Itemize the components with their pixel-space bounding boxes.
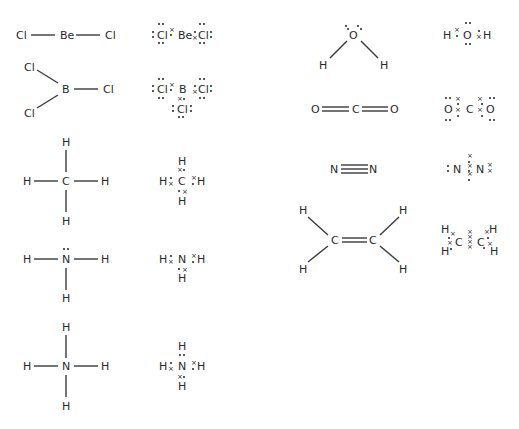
svg-text:×: ×: [168, 180, 174, 188]
atom-h: H: [23, 253, 31, 266]
atom-h: H: [399, 263, 407, 276]
molecule-diagram: Cl Be Cl Cl Be Cl × × Cl B Cl Cl Cl B C: [0, 0, 519, 429]
atom-c: C: [331, 234, 339, 247]
atom-c: C: [369, 234, 377, 247]
atom-cl: Cl: [24, 61, 35, 74]
atom-h: H: [23, 175, 31, 188]
atom-be: Be: [178, 29, 193, 42]
atom-c: C: [62, 175, 70, 188]
atom-c: C: [455, 236, 463, 249]
atom-h: H: [101, 175, 109, 188]
svg-text:×: ×: [168, 258, 174, 266]
atom-h: H: [441, 223, 449, 236]
atom-cl: Cl: [103, 83, 114, 96]
svg-text:×: ×: [477, 95, 483, 103]
svg-text:×: ×: [455, 106, 461, 114]
svg-text:×: ×: [182, 188, 188, 196]
svg-text:×: ×: [455, 95, 461, 103]
svg-text:×: ×: [454, 26, 460, 34]
atom-cl: Cl: [16, 29, 27, 42]
svg-text:×: ×: [177, 166, 183, 174]
svg-text:×: ×: [191, 174, 197, 182]
atom-h: H: [62, 136, 70, 149]
atom-n: N: [330, 163, 338, 176]
svg-text:×: ×: [476, 33, 482, 41]
atom-h: H: [197, 253, 205, 266]
atom-h: H: [443, 29, 451, 42]
atom-cl: Cl: [198, 29, 209, 42]
atom-cl: Cl: [157, 29, 168, 42]
atom-h: H: [299, 263, 307, 276]
nh4-structural: H H N H H: [23, 321, 109, 413]
atom-h: H: [483, 29, 491, 42]
svg-text:×: ×: [447, 239, 453, 247]
svg-text:×: ×: [487, 240, 493, 248]
atom-o: O: [463, 29, 472, 42]
svg-text:×: ×: [467, 152, 473, 160]
svg-text:×: ×: [192, 34, 198, 42]
svg-text:×: ×: [182, 266, 188, 274]
svg-text:×: ×: [192, 88, 198, 96]
atom-cl: Cl: [105, 29, 116, 42]
atom-n: N: [62, 360, 70, 373]
n2-dot-cross: N × × × N × ×: [447, 152, 493, 181]
atom-h: H: [62, 400, 70, 413]
bcl3-structural: Cl B Cl Cl: [24, 61, 114, 120]
atom-c: C: [352, 103, 360, 116]
atom-o: O: [311, 103, 320, 116]
ch4-dot-cross: H H C H H × × × ×: [159, 155, 205, 208]
h2o-structural: O H H: [319, 25, 388, 72]
co2-dot-cross: O C O × × × ×: [444, 95, 495, 121]
c2h4-dot-cross: H H C C H H × × × × × × × ×: [441, 223, 498, 258]
atom-o: O: [486, 103, 495, 116]
atom-h: H: [62, 321, 70, 334]
atom-n: N: [453, 163, 461, 176]
svg-text:×: ×: [191, 252, 197, 260]
svg-text:×: ×: [484, 228, 490, 236]
atom-o: O: [349, 29, 358, 42]
atom-h: H: [159, 175, 167, 188]
svg-text:×: ×: [177, 373, 183, 381]
atom-n: N: [178, 253, 186, 266]
atom-h: H: [159, 253, 167, 266]
atom-cl: Cl: [177, 103, 188, 116]
atom-h: H: [23, 360, 31, 373]
atom-h: H: [178, 195, 186, 208]
atom-h: H: [101, 253, 109, 266]
atom-b: B: [62, 83, 70, 96]
nh3-dot-cross: H N H H × × ×: [159, 252, 205, 285]
atom-h: H: [197, 175, 205, 188]
h2o-dot-cross: H O H × ×: [443, 22, 491, 45]
atom-c: C: [178, 175, 186, 188]
ch4-structural: H H C H H: [23, 136, 109, 228]
atom-h: H: [299, 204, 307, 217]
svg-text:×: ×: [191, 359, 197, 367]
atom-h: H: [319, 59, 327, 72]
atom-n: N: [476, 163, 484, 176]
svg-text:×: ×: [467, 170, 473, 178]
atom-h: H: [159, 360, 167, 373]
atom-n: N: [369, 163, 377, 176]
svg-text:×: ×: [467, 162, 473, 170]
atom-h: H: [178, 380, 186, 393]
svg-text:×: ×: [169, 81, 175, 89]
atom-h: H: [399, 204, 407, 217]
atom-cl: Cl: [24, 107, 35, 120]
svg-text:×: ×: [467, 243, 473, 251]
n2-structural: N N: [330, 163, 377, 176]
co2-structural: O C O: [311, 103, 399, 116]
atom-h: H: [197, 360, 205, 373]
svg-text:×: ×: [477, 106, 483, 114]
atom-be: Be: [60, 29, 75, 42]
svg-text:×: ×: [169, 26, 175, 34]
atom-cl: Cl: [198, 83, 209, 96]
atom-h: H: [101, 360, 109, 373]
diagram-svg: Cl Be Cl Cl Be Cl × × Cl B Cl Cl Cl B C: [0, 0, 519, 429]
atom-h: H: [489, 223, 497, 236]
bcl3-dot-cross: Cl B Cl Cl × × ×: [152, 78, 212, 118]
atom-c: C: [466, 103, 474, 116]
c2h4-structural: H H C C H H: [299, 204, 407, 276]
atom-n: N: [178, 360, 186, 373]
nh4-dot-cross: H H N H H × × ×: [159, 340, 205, 393]
atom-h: H: [178, 340, 186, 353]
